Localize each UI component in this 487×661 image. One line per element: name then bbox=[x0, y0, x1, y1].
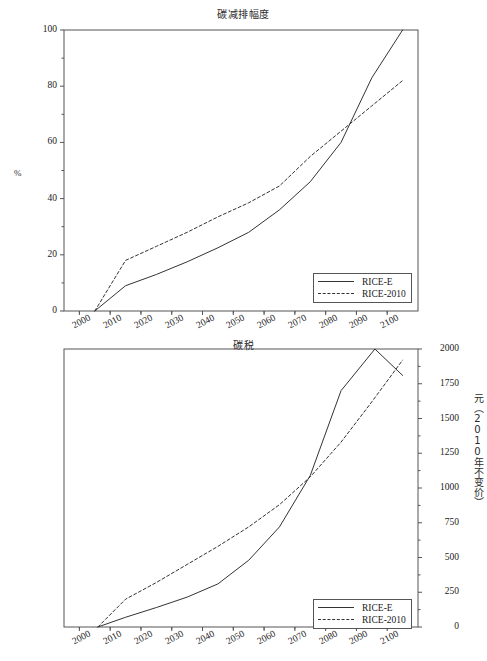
legend-label-rice-e: RICE-E bbox=[362, 602, 393, 614]
y-tick-label-1500: 1500 bbox=[426, 413, 459, 423]
series-line-rice-2010 bbox=[98, 360, 403, 627]
y-tick-label-1750: 1750 bbox=[426, 378, 459, 388]
y-tick-label-60: 60 bbox=[24, 136, 57, 146]
y-tick-label-1000: 1000 bbox=[426, 482, 459, 492]
y-tick-label-2000: 2000 bbox=[426, 343, 459, 353]
y-tick-label-250: 250 bbox=[426, 586, 459, 596]
y-tick-label-0: 0 bbox=[24, 305, 57, 315]
chart-emission-reduction: 碳减排幅度 % RICE-E RICE-2010 200020102020203… bbox=[0, 0, 487, 335]
y-tick-label-0: 0 bbox=[426, 621, 459, 631]
plot-area-tax bbox=[0, 335, 487, 661]
legend-item-rice-e: RICE-E bbox=[318, 602, 406, 614]
legend-item-rice-2010: RICE-2010 bbox=[318, 288, 406, 300]
y-tick-label-80: 80 bbox=[24, 80, 57, 90]
legend-item-rice-e: RICE-E bbox=[318, 276, 406, 288]
y-tick-label-500: 500 bbox=[426, 552, 459, 562]
legend-tax: RICE-E RICE-2010 bbox=[313, 599, 412, 629]
legend-label-rice-2010: RICE-2010 bbox=[362, 288, 406, 300]
legend-item-rice-2010: RICE-2010 bbox=[318, 614, 406, 626]
legend-label-rice-2010: RICE-2010 bbox=[362, 614, 406, 626]
y-tick-label-40: 40 bbox=[24, 193, 57, 203]
y-tick-label-1250: 1250 bbox=[426, 447, 459, 457]
y-tick-label-100: 100 bbox=[24, 24, 57, 34]
legend-line-solid-icon bbox=[318, 607, 354, 609]
legend-emission: RICE-E RICE-2010 bbox=[313, 273, 412, 303]
series-line-rice-e bbox=[95, 30, 403, 311]
y-tick-label-20: 20 bbox=[24, 249, 57, 259]
chart-carbon-tax: 碳税 元（2010年不变价） RICE-E RICE-2010 20002010… bbox=[0, 335, 487, 661]
legend-label-rice-e: RICE-E bbox=[362, 276, 393, 288]
series-line-rice-e bbox=[98, 349, 403, 627]
legend-line-dashed-icon bbox=[318, 293, 354, 295]
plot-area-emission bbox=[0, 0, 487, 335]
legend-line-solid-icon bbox=[318, 281, 354, 283]
y-tick-label-750: 750 bbox=[426, 517, 459, 527]
legend-line-dashed-icon bbox=[318, 619, 354, 621]
